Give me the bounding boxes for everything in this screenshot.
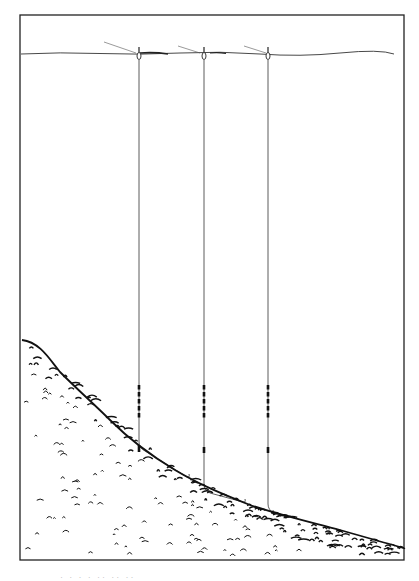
water-surface	[21, 51, 394, 55]
split-shot	[138, 413, 141, 418]
bed-texture	[332, 540, 339, 541]
bed-texture	[119, 475, 126, 476]
bed-texture	[240, 549, 246, 551]
bed-texture	[98, 425, 103, 427]
bed-texture	[125, 546, 127, 547]
rod-line	[104, 42, 136, 53]
bed-texture	[114, 529, 118, 530]
bed-texture	[45, 377, 51, 379]
bed-texture	[87, 404, 94, 405]
bed-texture	[230, 513, 235, 514]
bed-texture	[267, 534, 273, 536]
bed-texture	[177, 478, 183, 479]
bed-texture	[244, 536, 251, 538]
bed-texture	[91, 399, 101, 401]
bed-texture	[196, 539, 201, 540]
bed-texture	[105, 438, 110, 440]
bed-texture	[335, 535, 343, 536]
bed-texture	[385, 553, 391, 554]
rig-right	[244, 46, 274, 513]
main-line	[268, 60, 274, 513]
float-body	[202, 53, 206, 60]
bed-texture	[75, 385, 84, 387]
bed-texture	[29, 347, 33, 349]
bed-texture	[165, 470, 173, 471]
bed-texture	[43, 388, 47, 390]
bed-texture	[25, 548, 30, 549]
figure-frame	[20, 15, 404, 560]
bed-texture	[202, 548, 208, 550]
bed-texture	[97, 503, 103, 505]
bed-texture	[235, 538, 240, 539]
bed-texture	[47, 517, 52, 519]
bed-texture	[124, 428, 133, 429]
bed-texture	[276, 516, 287, 517]
bed-texture	[231, 504, 234, 506]
split-shot	[138, 399, 141, 404]
split-shot	[267, 392, 270, 397]
bed-texture	[33, 357, 41, 359]
rig-left	[104, 42, 189, 477]
bed-texture	[59, 424, 61, 426]
rig-middle	[178, 46, 245, 502]
bed-texture	[234, 519, 237, 520]
bed-texture	[315, 537, 319, 539]
bed-texture	[368, 544, 372, 545]
dropper-shot	[203, 447, 206, 453]
rod-line	[178, 46, 200, 53]
bed-texture	[177, 496, 182, 497]
bed-texture	[341, 534, 349, 536]
bed-texture	[326, 527, 329, 529]
bed-texture	[62, 517, 65, 518]
bed-texture	[34, 363, 38, 365]
bed-texture	[73, 406, 78, 408]
bed-texture	[154, 498, 156, 499]
bed-texture	[61, 477, 64, 479]
bed-texture	[367, 547, 373, 549]
bed-texture	[243, 510, 253, 512]
bed-texture	[128, 465, 132, 466]
bed-texture	[323, 527, 326, 528]
bed-texture	[370, 542, 377, 543]
bed-texture	[212, 523, 218, 525]
bed-texture	[255, 516, 258, 517]
bed-texture	[42, 398, 47, 400]
bed-texture	[280, 528, 284, 529]
bed-texture	[399, 547, 405, 548]
bed-texture	[190, 491, 197, 493]
bed-texture	[126, 507, 132, 509]
float-body	[137, 53, 141, 60]
bed-texture	[274, 546, 277, 548]
bed-texture	[313, 528, 318, 529]
bed-texture	[118, 426, 124, 428]
bed-texture	[209, 511, 212, 512]
bed-texture	[295, 535, 299, 536]
bed-texture	[109, 445, 115, 447]
bed-texture	[298, 524, 300, 525]
split-shot	[138, 392, 141, 397]
bed-texture	[75, 504, 80, 505]
bed-texture	[195, 523, 199, 525]
bed-texture	[265, 552, 270, 554]
bed-texture	[49, 368, 57, 370]
bed-texture	[71, 382, 80, 383]
bed-texture	[214, 504, 224, 506]
bed-texture	[187, 515, 194, 517]
bed-texture	[60, 443, 64, 445]
bed-texture	[75, 397, 81, 398]
bed-texture	[200, 488, 209, 489]
sloping-bed	[22, 340, 405, 556]
bed-texture	[264, 518, 274, 519]
bed-texture	[44, 391, 48, 393]
bed-texture	[35, 533, 38, 535]
bed-texture	[53, 518, 55, 519]
bed-texture	[309, 539, 314, 541]
bed-texture	[94, 494, 96, 495]
bed-texture	[24, 401, 28, 402]
bed-texture	[142, 521, 146, 523]
bed-texture	[227, 501, 232, 502]
bed-texture	[301, 530, 305, 532]
bed-texture	[128, 450, 133, 451]
bed-texture	[291, 537, 302, 538]
bed-texture	[311, 524, 316, 526]
